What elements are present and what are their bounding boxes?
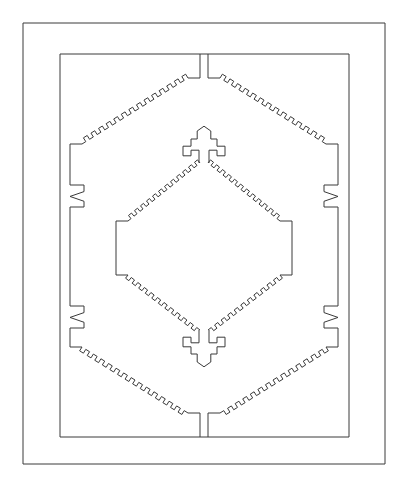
background-rect: [0, 0, 407, 487]
kilim-pattern-drawing: Kilim Medallion Line Drawing Monochrome …: [0, 0, 407, 487]
artwork-canvas: Kilim Medallion Line Drawing Monochrome …: [0, 0, 407, 487]
